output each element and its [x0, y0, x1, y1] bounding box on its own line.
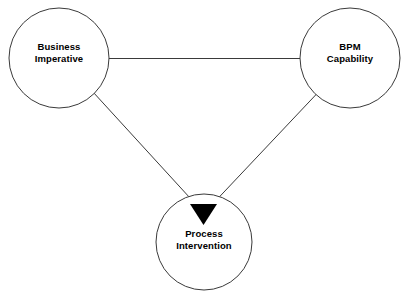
node-label-business-imperative: Business Imperative [9, 41, 109, 65]
node-label-bpm-capability: BPM Capability [300, 41, 400, 65]
node-label-process-intervention-line2: Intervention [156, 240, 252, 252]
node-label-process-intervention-line1: Process [185, 228, 223, 239]
diagram-canvas: Business Imperative BPM Capability Proce… [0, 0, 409, 298]
node-label-bpm-capability-line1: BPM [339, 41, 360, 52]
node-label-business-imperative-line1: Business [37, 41, 80, 52]
node-label-process-intervention: Process Intervention [156, 228, 252, 252]
node-label-bpm-capability-line2: Capability [300, 53, 400, 65]
node-label-business-imperative-line2: Imperative [9, 53, 109, 65]
